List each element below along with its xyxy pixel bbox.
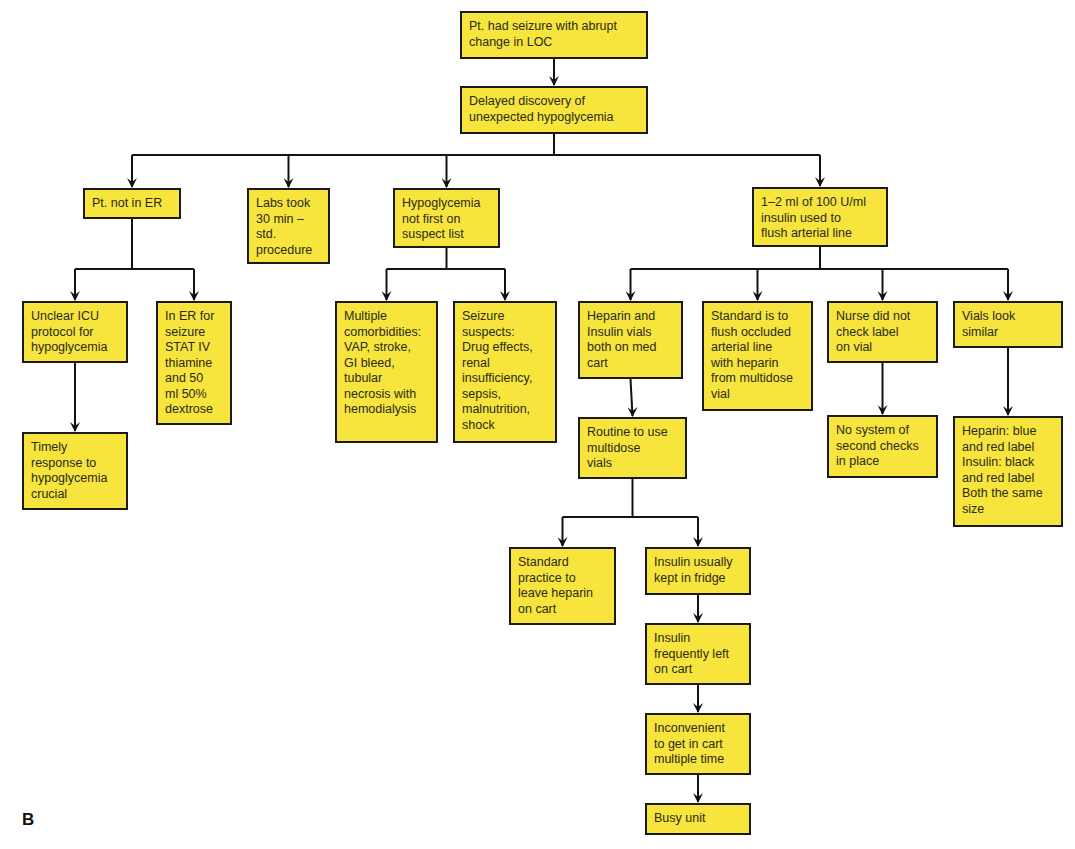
diagram-node-n19: Insulin usually kept in fridge — [645, 547, 751, 595]
diagram-node-n7: In ER for seizure STAT IV thiamine and 5… — [156, 301, 232, 425]
panel-label: B — [22, 810, 34, 830]
diagram-node-n18: Standard practice to leave heparin on ca… — [509, 547, 616, 625]
diagram-node-n8: Multiple comorbidities: VAP, stroke, GI … — [335, 301, 438, 443]
root-cause-tree-diagram: Pt. had seizure with abrupt change in LO… — [0, 0, 1075, 849]
diagram-node-n10: Heparin and Insulin vials both on med ca… — [578, 301, 683, 379]
diagram-node-n14: Routine to use multidose vials — [578, 417, 687, 479]
diagram-node-n4: Hypoglycemia not first on suspect list — [393, 188, 500, 248]
diagram-node-n21: Inconvenient to get in cart multiple tim… — [645, 713, 751, 775]
diagram-node-n13: Vials look similar — [953, 301, 1063, 348]
diagram-node-n3: Labs took 30 min – std. procedure — [247, 188, 330, 264]
diagram-node-n16: No system of second checks in place — [827, 415, 938, 478]
diagram-node-n12: Nurse did not check label on vial — [827, 301, 938, 363]
diagram-node-n9: Seizure suspects: Drug effects, renal in… — [453, 301, 557, 443]
diagram-node-n22: Busy unit — [645, 803, 751, 835]
diagram-node-n2: Pt. not in ER — [83, 188, 181, 219]
diagram-node-n1: Delayed discovery of unexpected hypoglyc… — [460, 86, 648, 134]
diagram-node-n17: Heparin: blue and red label Insulin: bla… — [953, 416, 1063, 527]
diagram-node-n11: Standard is to flush occluded arterial l… — [702, 301, 813, 411]
diagram-node-n5: 1–2 ml of 100 U/ml insulin used to flush… — [752, 187, 888, 247]
diagram-node-n20: Insulin frequently left on cart — [645, 623, 751, 685]
diagram-node-n15: Timely response to hypoglycemia crucial — [22, 432, 128, 510]
diagram-node-n0: Pt. had seizure with abrupt change in LO… — [460, 11, 648, 59]
connector-arrow — [631, 379, 633, 416]
diagram-node-n6: Unclear ICU protocol for hypoglycemia — [22, 301, 128, 363]
